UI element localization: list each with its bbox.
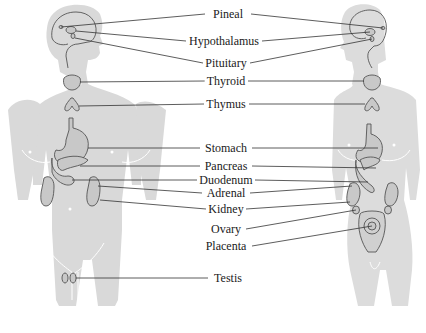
label-hypothalamus: Hypothalamus <box>187 34 261 48</box>
male-testis-right <box>70 273 76 283</box>
male-figure <box>8 5 166 306</box>
female-ovary-right <box>385 206 392 214</box>
male-hypothalamus <box>66 27 76 34</box>
label-pancreas: Pancreas <box>203 159 250 173</box>
endocrine-diagram: Pineal Hypothalamus Pituitary Thyroid Th… <box>0 0 426 333</box>
male-thyroid <box>63 75 80 90</box>
label-pineal: Pineal <box>211 7 245 21</box>
label-ovary: Ovary <box>209 222 243 236</box>
male-kidney-left <box>41 177 54 206</box>
female-thyroid <box>363 75 380 90</box>
label-pituitary: Pituitary <box>203 56 248 70</box>
male-pituitary <box>71 34 75 39</box>
label-placenta: Placenta <box>204 239 249 253</box>
label-stomach: Stomach <box>203 141 249 155</box>
label-testis: Testis <box>212 271 244 285</box>
label-thyroid: Thyroid <box>205 74 248 88</box>
label-adrenal: Adrenal <box>205 186 248 200</box>
label-duodenum: Duodenum <box>197 173 254 187</box>
label-thymus: Thymus <box>204 97 247 111</box>
male-testis-left <box>62 273 68 283</box>
label-kidney: Kidney <box>206 202 245 216</box>
